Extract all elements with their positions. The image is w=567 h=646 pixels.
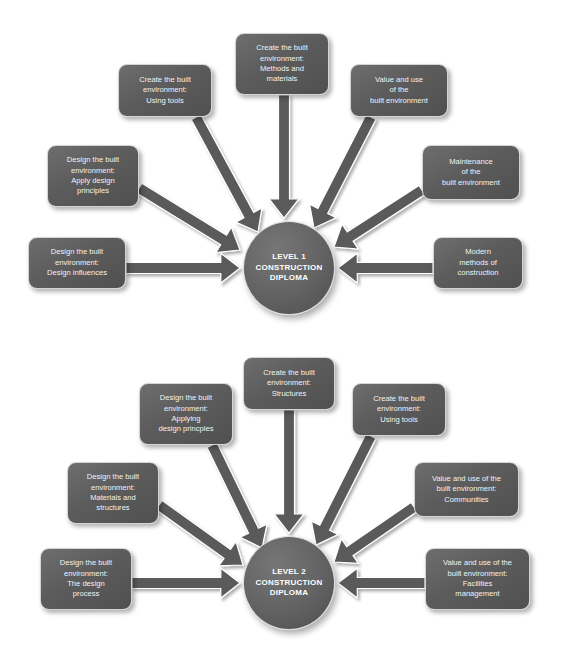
node-l1-modern-methods[interactable]: Modernmethods ofconstruction <box>433 237 523 289</box>
node-label: Modernmethods ofconstruction <box>439 247 517 278</box>
level-1-diagram: Create the builtenvironment:Using toolsC… <box>0 0 567 330</box>
node-label: Value and use of thebuilt environment:Fa… <box>431 558 524 600</box>
node-l2-create-using-tools[interactable]: Create the builtenvironment:Using tools <box>352 383 446 436</box>
node-l1-design-influences[interactable]: Design the builtenvironment:Design influ… <box>28 237 126 289</box>
hub-label: LEVEL 1CONSTRUCTIONDIPLOMA <box>244 252 334 284</box>
hub-label: LEVEL 2CONSTRUCTIONDIPLOMA <box>244 567 334 599</box>
hub-level-2-construction-diploma[interactable]: LEVEL 2CONSTRUCTIONDIPLOMA <box>243 536 335 630</box>
level-2-diagram: Design the builtenvironment:Applyingdesi… <box>0 330 567 646</box>
node-l2-design-applying-principles[interactable]: Design the builtenvironment:Applyingdesi… <box>139 383 233 445</box>
node-label: Maintenanceof thebuilt environment <box>428 157 514 188</box>
arrow-l2-design-materials-structures <box>156 501 243 566</box>
arrow-l1-maintenance <box>334 185 425 249</box>
node-label: Create the builtenvironment:Methods andm… <box>241 43 323 85</box>
node-label: Design the builtenvironment:Design influ… <box>34 247 120 278</box>
node-label: Value and useof thebuilt environment <box>356 75 442 106</box>
arrow-l2-value-facilities <box>338 568 425 598</box>
node-label: Design the builtenvironment:The designpr… <box>46 558 126 600</box>
node-l2-value-communities[interactable]: Value and use of thebuilt environment:Co… <box>414 462 519 517</box>
arrow-l1-modern-methods <box>338 253 433 283</box>
node-l1-maintenance[interactable]: Maintenanceof thebuilt environment <box>422 145 520 200</box>
node-l2-create-structures[interactable]: Create the builtenvironment:Structures <box>243 357 335 410</box>
arrow-l1-design-apply-principles <box>136 183 240 252</box>
arrow-l2-create-structures <box>274 410 304 533</box>
hub-level-1-construction-diploma[interactable]: LEVEL 1CONSTRUCTIONDIPLOMA <box>243 221 335 315</box>
node-l2-value-facilities[interactable]: Value and use of thebuilt environment:Fa… <box>425 548 530 610</box>
node-label: Create the builtenvironment:Structures <box>249 368 329 399</box>
node-label: Create the builtenvironment:Using tools <box>124 75 206 106</box>
node-label: Design the builtenvironment:Materials an… <box>73 472 153 514</box>
node-label: Value and use of thebuilt environment:Co… <box>420 474 513 505</box>
node-label: Design the builtenvironment:Apply design… <box>53 155 133 197</box>
arrow-l1-value-and-use <box>310 115 376 229</box>
arrow-l1-design-influences <box>126 253 240 283</box>
node-l1-create-using-tools[interactable]: Create the builtenvironment:Using tools <box>118 64 212 117</box>
arrow-l1-create-methods-materials <box>269 95 299 218</box>
node-label: Design the builtenvironment:Applyingdesi… <box>145 393 227 435</box>
node-label: Create the builtenvironment:Using tools <box>358 394 440 425</box>
node-l1-create-methods-materials[interactable]: Create the builtenvironment:Methods andm… <box>235 33 329 95</box>
arrow-l2-design-process <box>132 568 240 598</box>
arrow-l1-create-using-tools <box>191 114 262 232</box>
node-l1-value-and-use[interactable]: Value and useof thebuilt environment <box>350 64 448 117</box>
arrow-l2-value-communities <box>334 503 417 564</box>
node-l2-design-process[interactable]: Design the builtenvironment:The designpr… <box>40 548 132 610</box>
arrow-l2-design-applying-principles <box>207 443 267 548</box>
node-l1-design-apply-principles[interactable]: Design the builtenvironment:Apply design… <box>47 145 139 207</box>
node-l2-design-materials-structures[interactable]: Design the builtenvironment:Materials an… <box>67 462 159 524</box>
arrow-l2-create-using-tools <box>311 434 376 546</box>
